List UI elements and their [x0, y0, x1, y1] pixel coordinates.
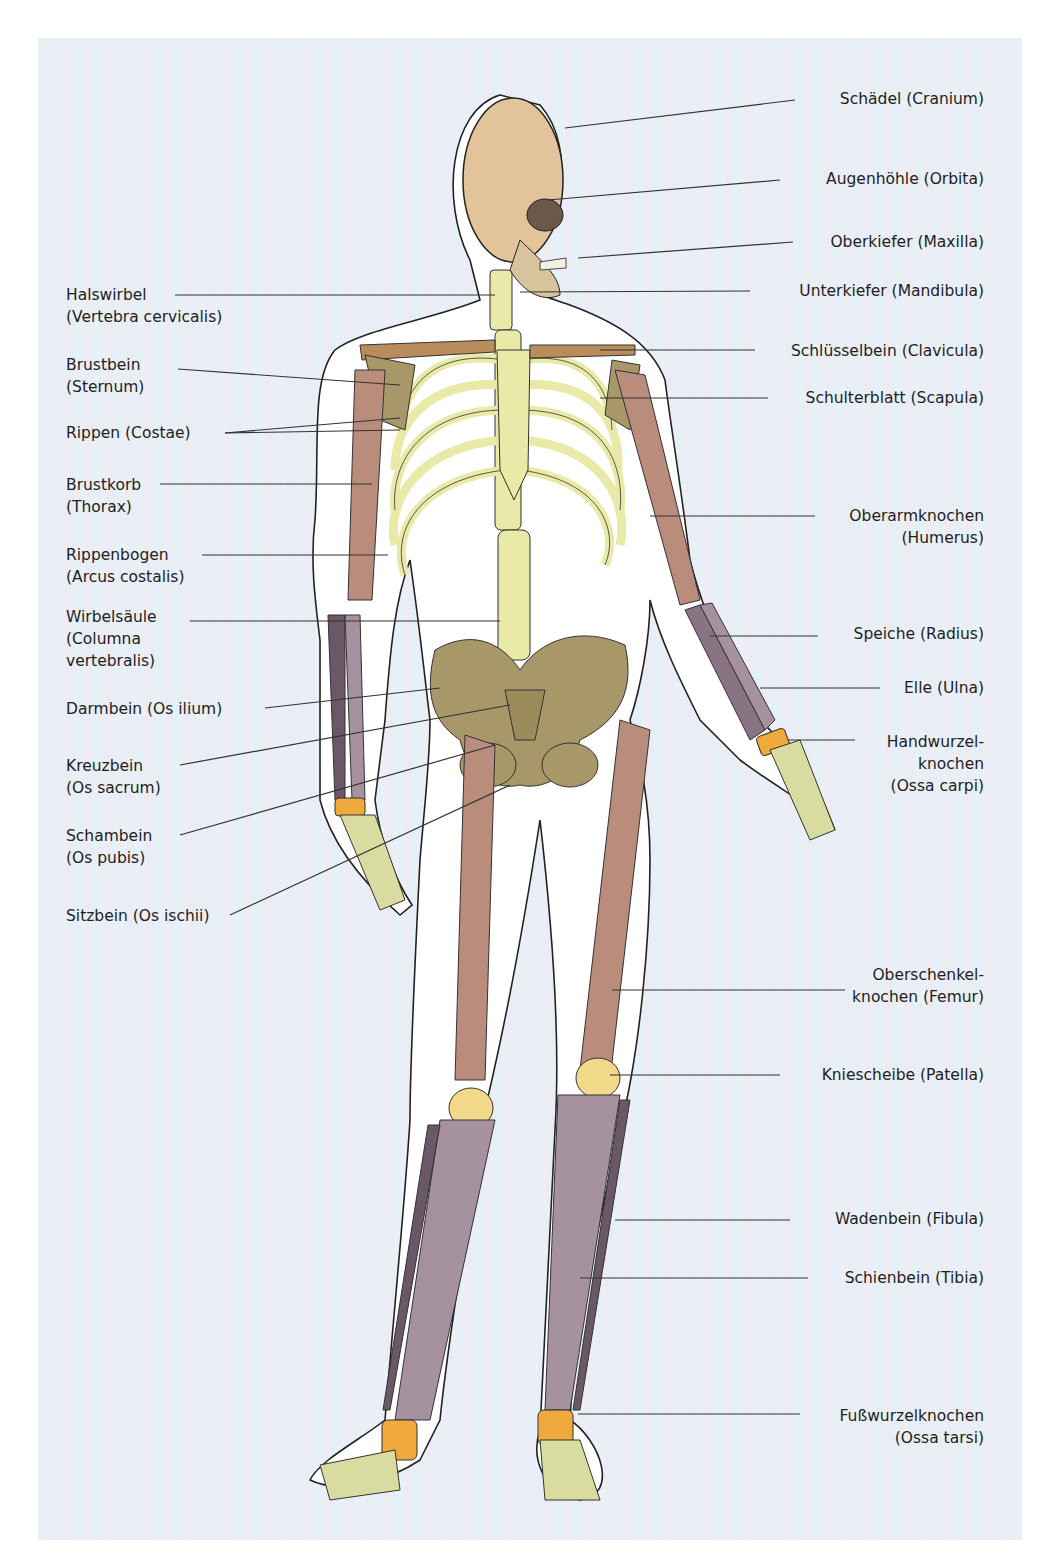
label-orbita: Augenhöhle (Orbita): [826, 168, 984, 190]
label-tarsi: Fußwurzelknochen(Ossa tarsi): [840, 1405, 985, 1449]
label-tibia: Schienbein (Tibia): [845, 1267, 984, 1289]
label-pubis: Schambein(Os pubis): [66, 825, 152, 869]
label-patella: Kniescheibe (Patella): [822, 1064, 984, 1086]
label-sacrum: Kreuzbein(Os sacrum): [66, 755, 161, 799]
label-columna: Wirbelsäule(Columnavertebralis): [66, 606, 157, 672]
label-clavicula: Schlüsselbein (Clavicula): [791, 340, 984, 362]
pelvis: [430, 636, 628, 787]
label-ilium: Darmbein (Os ilium): [66, 698, 222, 720]
label-mandibula: Unterkiefer (Mandibula): [799, 280, 984, 302]
label-arcus: Rippenbogen(Arcus costalis): [66, 544, 184, 588]
label-ulna: Elle (Ulna): [904, 677, 984, 699]
label-carpi: Handwurzel-knochen(Ossa carpi): [887, 731, 984, 797]
label-humerus: Oberarmknochen(Humerus): [849, 505, 984, 549]
label-ischii: Sitzbein (Os ischii): [66, 905, 209, 927]
label-thorax: Brustkorb(Thorax): [66, 474, 141, 518]
label-cranium: Schädel (Cranium): [840, 88, 984, 110]
label-scapula: Schulterblatt (Scapula): [806, 387, 984, 409]
label-cervicalis: Halswirbel(Vertebra cervicalis): [66, 284, 222, 328]
label-sternum: Brustbein(Sternum): [66, 354, 144, 398]
label-maxilla: Oberkiefer (Maxilla): [830, 231, 984, 253]
label-femur: Oberschenkel-knochen (Femur): [852, 964, 984, 1008]
label-costae: Rippen (Costae): [66, 422, 191, 444]
label-radius: Speiche (Radius): [854, 623, 984, 645]
label-fibula: Wadenbein (Fibula): [835, 1208, 984, 1230]
